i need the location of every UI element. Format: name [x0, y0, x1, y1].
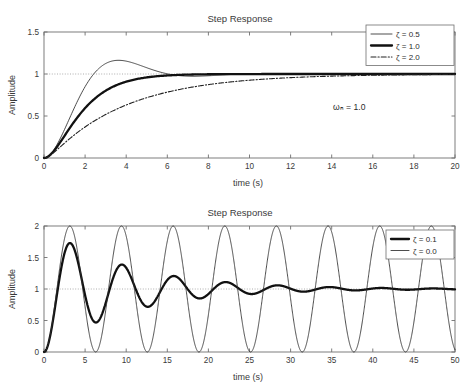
x-tick-label: 0 — [42, 162, 47, 171]
y-tick-label: 1 — [34, 285, 39, 294]
x-tick-label: 30 — [286, 356, 296, 365]
y-tick-label: 2 — [34, 222, 39, 231]
y-tick-label: 1.5 — [28, 28, 40, 37]
x-tick-label: 4 — [124, 162, 129, 171]
legend-top[interactable]: ζ = 0.5ζ = 1.0ζ = 2.0 — [366, 25, 454, 66]
series-line-1 — [44, 74, 455, 158]
legend-label-1[interactable]: ζ = 0.0 — [413, 247, 437, 256]
x-tick-label: 8 — [206, 162, 211, 171]
step-response-chart-bottom: Step Response 0510152025303540455000.511… — [0, 194, 472, 388]
x-tick-label: 45 — [409, 356, 419, 365]
legend-label-0[interactable]: ζ = 0.1 — [413, 235, 437, 244]
x-tick-label: 2 — [83, 162, 88, 171]
x-tick-label: 20 — [204, 356, 214, 365]
x-axis-label-top: time (s) — [233, 178, 263, 188]
x-tick-label: 10 — [122, 356, 132, 365]
x-tick-label: 14 — [327, 162, 337, 171]
legend-label-2[interactable]: ζ = 2.0 — [396, 53, 420, 62]
y-tick-label: 0 — [34, 348, 39, 357]
x-tick-label: 25 — [245, 356, 255, 365]
x-axis-label-bottom: time (s) — [233, 372, 263, 382]
x-tick-label: 16 — [368, 162, 378, 171]
x-tick-label: 12 — [286, 162, 296, 171]
x-tick-label: 15 — [163, 356, 173, 365]
step-response-chart-top: Step Response 0246810121416182000.511.5 … — [0, 0, 472, 194]
x-tick-label: 6 — [165, 162, 170, 171]
x-tick-label: 18 — [409, 162, 419, 171]
figure-page: Step Response 0246810121416182000.511.5 … — [0, 0, 472, 388]
x-tick-label: 20 — [450, 162, 460, 171]
omega-n-annotation: ωₙ = 1.0 — [333, 102, 366, 112]
x-tick-label: 5 — [83, 356, 88, 365]
x-tick-label: 35 — [327, 356, 337, 365]
x-tick-label: 0 — [42, 356, 47, 365]
y-tick-label: 0.5 — [28, 112, 40, 121]
y-axis-label-top: Amplitude — [7, 75, 17, 115]
y-tick-label: 0.5 — [28, 317, 40, 326]
x-tick-label: 40 — [368, 356, 378, 365]
legend-bottom[interactable]: ζ = 0.1ζ = 0.0 — [386, 230, 454, 259]
series-line-2 — [44, 74, 455, 158]
y-tick-label: 0 — [34, 154, 39, 163]
chart-canvas-bottom: Step Response 0510152025303540455000.511… — [0, 194, 472, 388]
chart-canvas-top: Step Response 0246810121416182000.511.5 … — [0, 0, 472, 194]
y-axis-label-bottom: Amplitude — [7, 269, 17, 309]
legend-label-0[interactable]: ζ = 0.5 — [396, 30, 420, 39]
legend-label-1[interactable]: ζ = 1.0 — [396, 42, 420, 51]
x-tick-label: 10 — [245, 162, 255, 171]
x-tick-label: 50 — [450, 356, 460, 365]
y-tick-label: 1.5 — [28, 254, 40, 263]
chart-title-top: Step Response — [208, 13, 273, 24]
chart-title-bottom: Step Response — [208, 207, 273, 218]
y-tick-label: 1 — [34, 70, 39, 79]
